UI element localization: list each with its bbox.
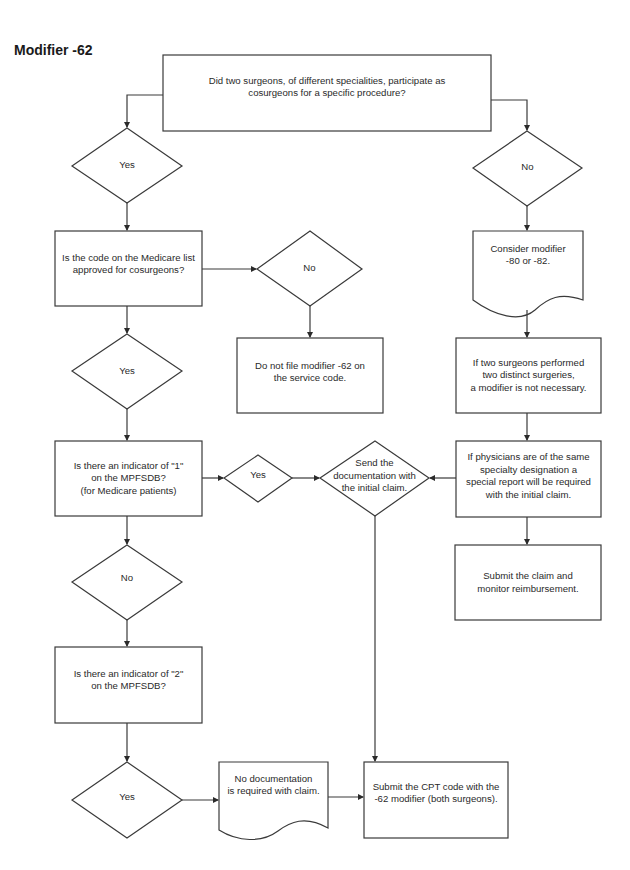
label-yes-2: Yes (72, 334, 182, 409)
label-no-3: No (72, 545, 182, 611)
label-no-1: No (473, 131, 582, 203)
label-send-documentation: Send the documentation with the initial … (320, 441, 429, 511)
edge-top-to-yes (127, 95, 163, 127)
label-do-not-file: Do not file modifier -62 on the service … (237, 338, 383, 406)
label-distinct-surgeries: If two surgeons performed two distinct s… (456, 338, 601, 413)
label-same-specialty: If physicians are of the same specialty … (456, 441, 601, 511)
label-no-2: No (257, 231, 362, 306)
label-consider-modifier: Consider modifier -80 or -82. (473, 238, 583, 272)
label-submit-cpt: Submit the CPT code with the -62 modifie… (364, 762, 508, 824)
label-no-documentation: No documentation is required with claim. (219, 768, 328, 802)
label-medicare-list: Is the code on the Medicare list approve… (55, 231, 202, 297)
label-indicator-1: Is there an indicator of "1" on the MPFS… (55, 441, 202, 516)
label-yes-1: Yes (72, 128, 182, 203)
label-yes-3: Yes (224, 455, 292, 495)
edge-top-to-no (491, 100, 527, 130)
label-yes-4: Yes (72, 762, 182, 832)
label-indicator-2: Is there an indicator of "2" on the MPFS… (55, 647, 202, 713)
label-two-surgeons: Did two surgeons, of different specialit… (163, 55, 491, 119)
label-submit-monitor: Submit the claim and monitor reimburseme… (455, 545, 601, 620)
